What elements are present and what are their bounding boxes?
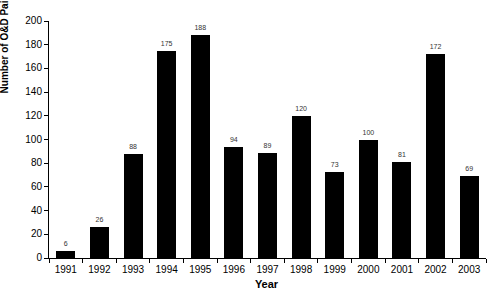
y-axis-tick-label: 40 <box>31 206 42 216</box>
bar-1991 <box>56 251 75 258</box>
x-axis-tick <box>116 259 117 263</box>
bar-value-label-1992: 26 <box>84 216 114 224</box>
y-axis-tick-label: 160 <box>25 63 42 73</box>
y-axis-tick-label: 0 <box>36 253 42 263</box>
x-axis-tick <box>250 259 251 263</box>
x-axis-tick <box>452 259 453 263</box>
y-axis-tick <box>44 44 48 45</box>
bar-1996 <box>224 147 243 258</box>
y-axis-tick-label: 100 <box>25 135 42 145</box>
bar-2000 <box>359 140 378 259</box>
x-axis-title: Year <box>48 278 485 290</box>
y-axis-tick-label: 180 <box>25 40 42 50</box>
bar-1993 <box>124 154 143 258</box>
x-axis-tick <box>351 259 352 263</box>
y-axis-tick <box>44 163 48 164</box>
bar-2001 <box>392 162 411 258</box>
x-axis-tick <box>82 259 83 263</box>
y-axis-tick <box>44 68 48 69</box>
bar-value-label-2002: 172 <box>421 43 451 51</box>
x-axis-tick <box>149 259 150 263</box>
y-axis-tick-label: 140 <box>25 87 42 97</box>
y-axis-tick-label: 120 <box>25 111 42 121</box>
x-axis-tick <box>418 259 419 263</box>
x-axis-tick <box>284 259 285 263</box>
y-axis-tick <box>44 139 48 140</box>
bar-value-label-1998: 120 <box>286 105 316 113</box>
y-axis-tick <box>44 210 48 211</box>
bar-value-label-1997: 89 <box>253 142 283 150</box>
bar-value-label-2000: 100 <box>353 129 383 137</box>
y-axis-tick <box>44 234 48 235</box>
y-axis-tick <box>44 115 48 116</box>
bar-value-label-1996: 94 <box>219 136 249 144</box>
x-axis-tick <box>385 259 386 263</box>
y-axis-tick <box>44 21 48 22</box>
y-axis-tick-label: 20 <box>31 229 42 239</box>
bar-value-label-1994: 175 <box>152 40 182 48</box>
bar-value-label-1991: 6 <box>51 240 81 248</box>
y-axis-title: Number of O&D Pairs <box>0 0 10 93</box>
y-axis-tick <box>44 258 48 259</box>
bar-1994 <box>157 51 176 258</box>
bar-1997 <box>258 153 277 258</box>
y-axis-tick <box>44 92 48 93</box>
bar-1992 <box>90 227 109 258</box>
x-axis-tick-label-2003: 2003 <box>449 264 489 275</box>
x-axis-tick <box>317 259 318 263</box>
y-axis-tick-label: 80 <box>31 158 42 168</box>
x-axis-tick <box>217 259 218 263</box>
bar-1998 <box>292 116 311 258</box>
bar-1995 <box>191 35 210 258</box>
bar-chart-figure: Number of O&D Pairs 02040608010012014016… <box>0 0 491 298</box>
x-axis-tick <box>183 259 184 263</box>
bar-value-label-2003: 69 <box>454 165 484 173</box>
plot-area: 0204060801001201401601802006199126199288… <box>48 21 486 259</box>
bar-value-label-1993: 88 <box>118 143 148 151</box>
bar-value-label-2001: 81 <box>387 151 417 159</box>
bar-2002 <box>426 54 445 258</box>
bar-1999 <box>325 172 344 259</box>
bar-2003 <box>460 176 479 258</box>
y-axis-tick <box>44 186 48 187</box>
x-axis-tick <box>486 259 487 263</box>
bar-value-label-1999: 73 <box>320 161 350 169</box>
bar-value-label-1995: 188 <box>185 24 215 32</box>
y-axis-tick-label: 60 <box>31 182 42 192</box>
y-axis-tick-label: 200 <box>25 16 42 26</box>
x-axis-tick <box>49 259 50 263</box>
